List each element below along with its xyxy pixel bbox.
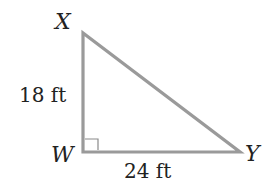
right-angle-marker [85,139,98,150]
vertex-label-w: W [51,142,76,167]
vertex-label-x: X [53,9,72,34]
triangle-xwy [83,33,240,152]
side-label-xw: 18 ft [19,83,66,107]
vertex-label-y: Y [245,141,262,166]
right-triangle-diagram: X 18 ft W 24 ft Y [0,0,276,189]
side-label-wy: 24 ft [124,159,171,183]
